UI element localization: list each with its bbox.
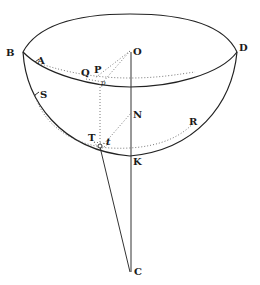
label-A: A [36,55,45,66]
rim-front-arc [23,52,237,87]
bowl-outline [23,52,237,156]
latitude-dotted [35,95,196,148]
label-D: D [239,42,248,53]
label-t: t [106,136,111,147]
label-Q: Q [81,67,90,78]
rim-back-arc [23,14,237,52]
label-p: p [101,79,106,87]
label-S: S [40,89,47,100]
hemisphere-diagram: B D O A Q P p S N R T t K C [0,0,260,285]
label-P: P [94,64,102,75]
label-N: N [133,109,142,120]
label-C: C [134,266,142,277]
label-R: R [189,116,198,127]
S-tick [35,92,39,95]
label-K: K [133,156,142,167]
label-B: B [6,47,14,58]
rim-inner-dotted [35,62,195,78]
label-O: O [133,46,142,57]
T-point-circle [98,144,102,148]
label-T: T [88,132,96,143]
line-T-C [100,147,130,272]
O-to-p-dotted [103,51,130,82]
